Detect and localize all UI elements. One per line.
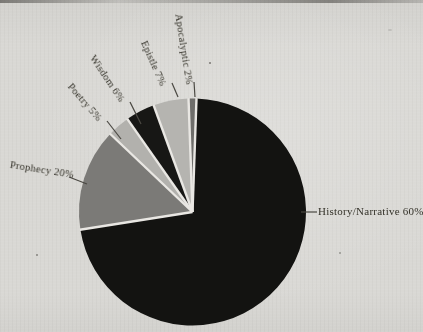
- epistle-leader-line: [172, 83, 178, 97]
- pie-chart: [0, 0, 423, 332]
- history-narrative-label: History/Narrative 60%: [318, 205, 423, 217]
- apocalyptic-leader-line: [194, 82, 195, 97]
- scanned-page: History/Narrative 60%Prophecy 20%Poetry …: [0, 0, 423, 332]
